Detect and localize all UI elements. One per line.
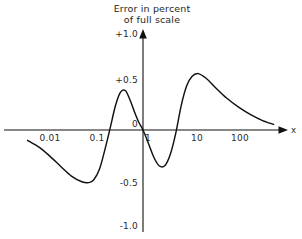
- y-tick-label-2: +0.5: [115, 75, 138, 85]
- x-axis-arrow-icon: [279, 126, 289, 134]
- error-plot: Error in percent of full scale +1.0 +0.5…: [0, 0, 302, 239]
- y-tick-label-5: -1.0: [120, 221, 138, 231]
- chart-title-line-1: Error in percent: [114, 3, 191, 14]
- y-tick-label-4: -0.5: [120, 178, 138, 188]
- y-axis-arrow-icon: [139, 29, 147, 39]
- x-tick-label-2: 0.1: [90, 133, 105, 143]
- chart-title-line-2: of full scale: [124, 14, 180, 25]
- y-tick-label-1: +1.0: [115, 29, 138, 39]
- x-tick-label-5: 100: [231, 133, 249, 143]
- chart-container: Error in percent of full scale +1.0 +0.5…: [0, 0, 302, 239]
- x-axis-label: x: [291, 125, 296, 135]
- error-curve: [28, 74, 274, 183]
- x-tick-label-4: 10: [191, 133, 203, 143]
- x-tick-label-1: 0.01: [40, 133, 61, 143]
- y-tick-label-3: 0: [132, 119, 138, 129]
